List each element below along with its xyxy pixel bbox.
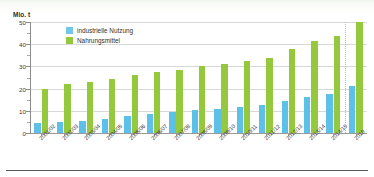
bar-industrielle-nutzung — [237, 107, 243, 133]
bar-nahrungsmittel — [289, 49, 295, 133]
bar-group — [192, 22, 206, 133]
chart-legend: industrielle NutzungNahrungsmittel — [66, 27, 133, 44]
bar-industrielle-nutzung — [326, 94, 332, 133]
bar-group — [349, 22, 363, 133]
bar-industrielle-nutzung — [102, 119, 108, 133]
bar-industrielle-nutzung — [259, 105, 265, 133]
bar-industrielle-nutzung — [147, 114, 153, 133]
y-tick-label-0: 0 — [12, 130, 26, 137]
bar-industrielle-nutzung — [282, 101, 288, 133]
bar-nahrungsmittel — [266, 58, 272, 133]
y-tick-label-30: 30 — [12, 63, 26, 70]
bar-industrielle-nutzung — [304, 97, 310, 133]
bar-group — [147, 22, 161, 133]
bar-group — [304, 22, 318, 133]
bar-industrielle-nutzung — [34, 123, 40, 133]
bar-group — [169, 22, 183, 133]
bar-nahrungsmittel — [244, 61, 250, 133]
bar-nahrungsmittel — [87, 82, 93, 133]
legend-item[interactable]: Nahrungsmittel — [66, 37, 133, 44]
bar-nahrungsmittel — [176, 70, 182, 133]
bar-group — [282, 22, 296, 133]
y-axis-title: Mio. t — [13, 11, 30, 18]
bar-nahrungsmittel — [109, 79, 115, 133]
bar-industrielle-nutzung — [124, 116, 130, 133]
legend-label: industrielle Nutzung — [77, 27, 133, 34]
chart-figure: Mio. t 01020304050 industrielle NutzungN… — [0, 0, 374, 177]
projection-separator — [345, 22, 347, 133]
y-tick-label-20: 20 — [12, 85, 26, 92]
bar-industrielle-nutzung — [349, 86, 355, 133]
y-tick-label-10: 10 — [12, 107, 26, 114]
bar-nahrungsmittel — [132, 75, 138, 133]
legend-swatch-icon — [66, 37, 73, 44]
bar-nahrungsmittel — [154, 72, 160, 133]
bar-group — [214, 22, 228, 133]
legend-label: Nahrungsmittel — [77, 37, 120, 44]
y-tick-label-40: 40 — [12, 41, 26, 48]
legend-swatch-icon — [66, 27, 73, 34]
bar-industrielle-nutzung — [57, 122, 63, 133]
bar-industrielle-nutzung — [214, 109, 220, 133]
bar-nahrungsmittel — [64, 84, 70, 133]
bar-nahrungsmittel — [356, 22, 362, 133]
legend-item[interactable]: industrielle Nutzung — [66, 27, 133, 34]
bar-nahrungsmittel — [221, 64, 227, 133]
y-axis-tick-labels: 01020304050 — [10, 22, 26, 133]
bar-group — [259, 22, 273, 133]
bar-nahrungsmittel — [199, 66, 205, 133]
bar-industrielle-nutzung — [192, 110, 198, 133]
bottom-rule — [6, 170, 368, 171]
bar-group — [326, 22, 340, 133]
y-tick-label-50: 50 — [12, 19, 26, 26]
x-axis-tick-labels: 2001/022002/032003/042004/052005/062006/… — [30, 134, 367, 166]
bar-industrielle-nutzung — [169, 112, 175, 133]
bar-group — [34, 22, 48, 133]
bar-nahrungsmittel — [311, 41, 317, 133]
bar-nahrungsmittel — [334, 36, 340, 133]
bar-group — [237, 22, 251, 133]
bar-industrielle-nutzung — [79, 121, 85, 133]
